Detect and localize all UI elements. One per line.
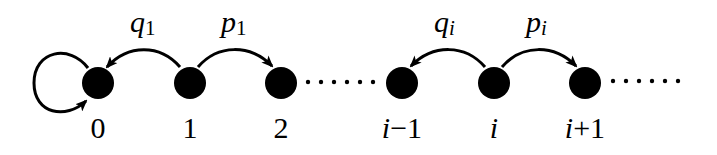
node-label-2: 2 bbox=[274, 111, 289, 144]
node-label-i-minus-1: i−1 bbox=[382, 111, 422, 144]
node-1 bbox=[174, 67, 206, 99]
node-label-0: 0 bbox=[91, 111, 106, 144]
edge-label-pi: pi bbox=[524, 5, 547, 40]
node-label-i: i bbox=[490, 111, 498, 144]
ellipsis-trailing bbox=[611, 79, 680, 83]
ellipsis-middle bbox=[306, 80, 375, 84]
edge-1-to-2 bbox=[198, 50, 272, 67]
node-i-plus-1 bbox=[569, 67, 601, 99]
edge-label-qi: qi bbox=[434, 5, 455, 40]
self-loop-edge-0 bbox=[34, 53, 88, 111]
edge-label-p1: p1 bbox=[219, 5, 247, 40]
edge-label-q1: q1 bbox=[130, 5, 156, 40]
node-label-i-plus-1: i+1 bbox=[565, 111, 605, 144]
birth-death-chain-diagram: q1 p1 qi pi 0 1 2 i−1 i i+1 bbox=[0, 0, 717, 155]
edge-i-to-i-minus-1 bbox=[411, 50, 485, 67]
node-i bbox=[478, 67, 510, 99]
node-2 bbox=[265, 67, 297, 99]
edge-i-to-i-plus-1 bbox=[502, 50, 576, 67]
node-i-minus-1 bbox=[386, 67, 418, 99]
node-label-1: 1 bbox=[183, 111, 198, 144]
node-0 bbox=[82, 67, 114, 99]
edge-1-to-0 bbox=[107, 50, 180, 67]
